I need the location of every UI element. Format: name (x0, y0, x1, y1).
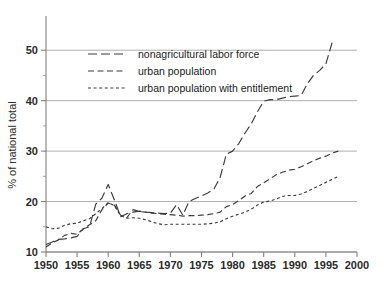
x-tick-label-1965: 1965 (127, 259, 151, 271)
y-axis-title: % of national total (6, 101, 18, 188)
legend-label-1: urban population (138, 65, 216, 77)
x-tick-label-1950: 1950 (34, 259, 58, 271)
y-axis: 1020304050 (26, 16, 46, 258)
x-tick-label-1960: 1960 (96, 259, 120, 271)
y-tick-label-10: 10 (26, 246, 38, 258)
x-axis: 1950195519601965197019751980198519901995… (34, 252, 369, 271)
x-tick-label-1970: 1970 (158, 259, 182, 271)
y-axis-title-group: % of national total (6, 101, 18, 188)
x-tick-label-1985: 1985 (251, 259, 275, 271)
x-tick-label-1990: 1990 (283, 259, 307, 271)
series-line-2 (46, 176, 338, 228)
y-tick-label-20: 20 (26, 196, 38, 208)
legend: nonagricultural labor forceurban populat… (88, 48, 292, 94)
series-line-1 (46, 151, 338, 247)
y-tick-label-50: 50 (26, 44, 38, 56)
x-tick-label-1995: 1995 (314, 259, 338, 271)
x-tick-label-1955: 1955 (65, 259, 89, 271)
line-chart: 1020304050 19501955196019651970197519801… (0, 0, 386, 284)
chart-container: 1020304050 19501955196019651970197519801… (0, 0, 386, 284)
legend-label-0: nonagricultural labor force (138, 48, 260, 60)
x-tick-label-2000: 2000 (345, 259, 369, 271)
x-tick-label-1980: 1980 (220, 259, 244, 271)
legend-label-2: urban population with entitlement (138, 82, 292, 94)
y-tick-label-30: 30 (26, 145, 38, 157)
x-tick-label-1975: 1975 (189, 259, 213, 271)
y-tick-label-40: 40 (26, 95, 38, 107)
